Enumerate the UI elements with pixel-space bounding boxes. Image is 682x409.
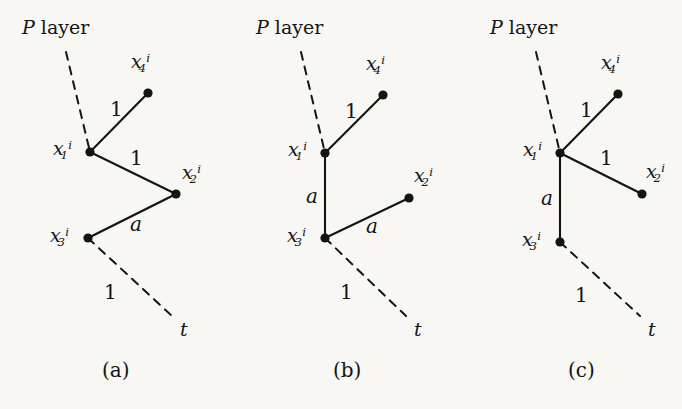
graph-node-dot-a-x1 (85, 147, 94, 156)
edge-weight-label-c-x1-x3: a (541, 188, 553, 208)
edge-weight-label-b-x1-x4: 1 (345, 101, 358, 121)
graph-node-dot-c-x3 (555, 237, 564, 246)
graph-node-dot-c-x2 (637, 189, 646, 198)
figure-canvas: x1ix2ix3ix4i11a1P layert(a)x1ix2ix3ix4i1… (0, 0, 682, 409)
dashed-edge-b-sink-edge (325, 238, 406, 316)
edge-weight-label-b-sink-edge: 1 (340, 282, 353, 302)
edge-weight-label-b-x1-x3: a (306, 186, 318, 206)
node-label-b-x3: x3i (287, 226, 306, 248)
panel-caption-a: (a) (102, 358, 130, 382)
edge-weight-label-a-x1-x4: 1 (110, 99, 123, 119)
edge-weight-label-a-x3-x2: a (130, 214, 142, 234)
node-label-a-x4: x4i (131, 52, 150, 74)
edge-weight-label-c-x1-x4: 1 (580, 100, 593, 120)
node-label-c-x4: x4i (601, 53, 620, 75)
p-layer-label-c: P layer (490, 16, 557, 38)
node-label-b-x1: x1i (288, 140, 307, 162)
panel-caption-b: (b) (333, 358, 361, 382)
node-label-a-x1: x1i (53, 139, 72, 161)
sink-label-b: t (414, 318, 422, 340)
edge-weight-label-c-sink-edge: 1 (575, 285, 588, 305)
graph-node-dot-c-x4 (613, 89, 622, 98)
p-layer-label-a: P layer (22, 16, 89, 38)
graph-node-dot-a-x4 (143, 88, 152, 97)
sink-label-a: t (180, 318, 188, 340)
p-layer-label-b: P layer (256, 16, 323, 38)
node-label-c-x1: x1i (523, 140, 542, 162)
node-label-a-x2: x2i (182, 163, 201, 185)
graph-node-dot-a-x3 (83, 233, 92, 242)
graph-node-dot-b-x2 (404, 193, 413, 202)
node-label-c-x2: x2i (646, 162, 665, 184)
edge-weight-label-c-x1-x2: 1 (600, 148, 613, 168)
dashed-edge-a-sink-edge (88, 238, 172, 316)
graph-node-dot-b-x1 (320, 148, 329, 157)
dashed-edge-a-p-layer-edge (66, 52, 90, 152)
dashed-edge-c-sink-edge (560, 242, 640, 316)
graph-node-dot-b-x3 (320, 233, 329, 242)
panel-caption-c: (c) (568, 358, 595, 382)
node-label-b-x2: x2i (414, 166, 433, 188)
sink-label-c: t (648, 318, 656, 340)
graph-node-dot-c-x1 (555, 148, 564, 157)
node-label-b-x4: x4i (366, 54, 385, 76)
edge-weight-label-b-x3-x2: a (366, 216, 378, 236)
node-label-c-x3: x3i (522, 230, 541, 252)
node-label-a-x3: x3i (50, 226, 69, 248)
graph-node-dot-a-x2 (171, 189, 180, 198)
edge-weight-label-a-sink-edge: 1 (104, 282, 117, 302)
edge-weight-label-a-x1-x2: 1 (130, 148, 143, 168)
graph-edges-layer (0, 0, 682, 409)
graph-node-dot-b-x4 (378, 90, 387, 99)
dashed-edge-c-p-layer-edge (536, 52, 560, 153)
dashed-edge-b-p-layer-edge (301, 52, 325, 153)
